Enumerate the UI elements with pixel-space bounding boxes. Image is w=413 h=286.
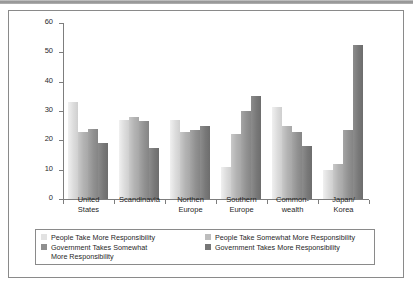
- legend-label-3: Government Takes More Responsibility: [215, 243, 340, 253]
- bar: [139, 121, 149, 199]
- bar: [282, 126, 292, 199]
- x-tick-0: [63, 200, 64, 204]
- bar-group: [221, 23, 261, 199]
- y-tick-20: 20: [59, 140, 63, 141]
- legend-swatch-icon-2: [41, 244, 47, 250]
- chart-figure-frame: 0102030405060 United StatesScandinaviaNo…: [8, 10, 404, 278]
- chart-legend: People Take More Responsibility People T…: [35, 229, 375, 265]
- legend-item-3: Government Takes More Responsibility: [205, 243, 369, 253]
- y-tick-label-30: 30: [45, 105, 53, 114]
- category-label: Common- wealth: [276, 195, 309, 214]
- x-tick-1: [114, 200, 115, 204]
- bar-group: [68, 23, 108, 199]
- bar: [302, 146, 312, 199]
- category-label: Japan/ Korea: [332, 195, 355, 214]
- legend-item-0: People Take More Responsibility: [41, 233, 205, 243]
- y-tick-label-50: 50: [45, 46, 53, 55]
- legend-swatch-icon-3: [205, 244, 211, 250]
- bar-group: [170, 23, 210, 199]
- legend-item-2: Government Takes Somewhat More Responsib…: [41, 243, 205, 262]
- legend-label-0: People Take More Responsibility: [51, 233, 155, 243]
- y-tick-60: 60: [59, 23, 63, 24]
- bar: [200, 126, 210, 199]
- legend-swatch-icon-1: [205, 234, 211, 240]
- bar: [190, 130, 200, 199]
- scan-artifact-band: [0, 0, 413, 4]
- bar: [241, 111, 251, 199]
- bar: [231, 134, 241, 199]
- bar: [149, 148, 159, 199]
- x-tick-5: [318, 200, 319, 204]
- bar: [68, 102, 78, 199]
- legend-label-2: Government Takes Somewhat More Responsib…: [51, 243, 147, 262]
- y-tick-label-10: 10: [45, 164, 53, 173]
- category-label: Southern Europe: [226, 195, 256, 214]
- bar: [343, 130, 353, 199]
- category-label: Scandinavia: [119, 195, 160, 205]
- bar: [180, 132, 190, 199]
- y-tick-10: 10: [59, 170, 63, 171]
- category-label: United States: [78, 195, 100, 214]
- bar: [170, 120, 180, 199]
- bar: [129, 117, 139, 199]
- legend-label-1: People Take Somewhat More Responsibility: [215, 233, 355, 243]
- category-label: Northen Europe: [177, 195, 204, 214]
- x-tick-2: [165, 200, 166, 204]
- x-tick-3: [216, 200, 217, 204]
- plot-area: 0102030405060: [63, 23, 369, 199]
- bar: [78, 132, 88, 199]
- y-tick-label-40: 40: [45, 76, 53, 85]
- bar-group: [272, 23, 312, 199]
- bar: [333, 164, 343, 199]
- x-tick-4: [267, 200, 268, 204]
- bar: [353, 45, 363, 199]
- y-tick-label-60: 60: [45, 17, 53, 26]
- legend-item-1: People Take Somewhat More Responsibility: [205, 233, 369, 243]
- bar: [98, 143, 108, 199]
- legend-swatch-icon-0: [41, 234, 47, 240]
- bar: [119, 120, 129, 199]
- bar-group: [323, 23, 363, 199]
- y-tick-30: 30: [59, 111, 63, 112]
- bar: [292, 132, 302, 199]
- bar: [88, 129, 98, 199]
- bar-group: [119, 23, 159, 199]
- legend-row-2: Government Takes Somewhat More Responsib…: [41, 243, 369, 262]
- bar: [272, 107, 282, 199]
- x-tick-6: [369, 200, 370, 204]
- y-tick-40: 40: [59, 82, 63, 83]
- bar: [251, 96, 261, 199]
- y-tick-label-20: 20: [45, 134, 53, 143]
- y-tick-50: 50: [59, 52, 63, 53]
- legend-row-1: People Take More Responsibility People T…: [41, 233, 369, 243]
- y-tick-label-0: 0: [49, 193, 53, 202]
- y-axis-line: [63, 23, 64, 200]
